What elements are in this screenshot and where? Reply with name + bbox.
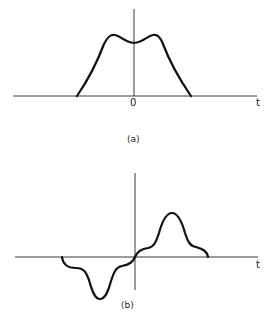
figure-a-origin-label: 0: [130, 97, 136, 108]
figure-b-t-label: t: [256, 259, 260, 270]
figure-a-caption: (a): [127, 134, 140, 144]
figure-b: [15, 173, 258, 299]
diagram-canvas: [0, 0, 274, 327]
figure-a: [13, 9, 257, 96]
figure-b-caption: (b): [121, 300, 134, 310]
figure-a-t-label: t: [256, 97, 260, 108]
